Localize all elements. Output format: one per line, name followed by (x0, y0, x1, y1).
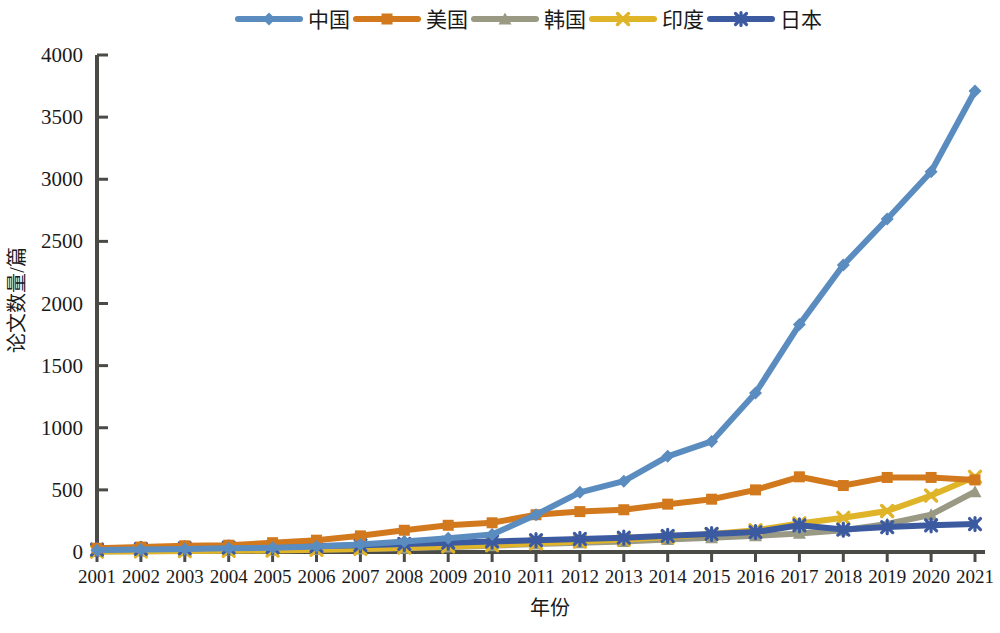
x-axis-tick-label: 2017 (780, 566, 818, 587)
y-axis-tick-label: 3000 (41, 167, 83, 191)
x-axis-tick-label: 2020 (912, 566, 950, 587)
x-axis-tick-label: 2013 (605, 566, 643, 587)
data-point-marker (399, 525, 410, 536)
y-axis-tick-label: 2500 (41, 229, 83, 253)
legend-label: 印度 (662, 8, 704, 32)
data-point-marker (794, 471, 805, 482)
legend-label: 中国 (308, 8, 350, 32)
x-axis-title: 年份 (530, 597, 570, 619)
chart-series (91, 85, 982, 558)
legend-item-0[interactable]: 中国 (238, 8, 350, 32)
legend-item-1[interactable]: 美国 (356, 8, 468, 32)
y-axis-title: 论文数量/篇 (6, 247, 28, 353)
x-axis-tick-label: 2009 (429, 566, 467, 587)
x-axis-tick-label: 2016 (737, 566, 775, 587)
legend-item-3[interactable]: 印度 (592, 8, 704, 32)
x-axis-tick-label: 2006 (298, 566, 336, 587)
data-point-marker (750, 484, 761, 495)
x-axis-tick-label: 2011 (517, 566, 554, 587)
data-point-marker (662, 499, 673, 510)
data-point-marker (838, 480, 849, 491)
legend-label: 美国 (426, 8, 468, 32)
x-axis-tick-label: 2002 (122, 566, 160, 587)
data-point-marker (970, 474, 981, 485)
data-point-marker (443, 520, 454, 531)
x-axis-tick-label: 2010 (473, 566, 511, 587)
y-axis-tick-label: 1000 (41, 416, 83, 440)
legend-item-2[interactable]: 韩国 (474, 8, 586, 32)
data-point-marker (487, 517, 498, 528)
x-axis-tick-label: 2003 (166, 566, 204, 587)
line-chart: 中国美国韩国印度日本 20012002200320042005200620072… (0, 0, 1000, 633)
x-axis-tick-label: 2019 (868, 566, 906, 587)
y-axis-tick-labels: 05001000150020002500300035004000 (41, 43, 83, 564)
x-axis-tick-label: 2004 (210, 566, 249, 587)
data-point-marker (618, 504, 629, 515)
y-axis-tick-label: 1500 (41, 354, 83, 378)
data-point-marker (882, 472, 893, 483)
x-axis-tick-label: 2007 (341, 566, 379, 587)
chart-legend: 中国美国韩国印度日本 (238, 8, 822, 32)
data-point-marker (574, 506, 585, 517)
data-point-marker (263, 13, 276, 26)
x-axis-tick-label: 2008 (385, 566, 423, 587)
y-axis-tick-label: 0 (73, 540, 84, 564)
x-axis-tick-label: 2014 (649, 566, 688, 587)
y-axis-tick-label: 4000 (41, 43, 83, 67)
legend-label: 日本 (780, 8, 822, 32)
x-axis-tick-label: 2001 (78, 566, 116, 587)
x-axis-tick-label: 2018 (824, 566, 862, 587)
y-axis-tick-label: 500 (52, 478, 84, 502)
y-axis-tick-label: 3500 (41, 105, 83, 129)
data-point-marker (706, 494, 717, 505)
legend-item-4[interactable]: 日本 (710, 8, 822, 32)
y-axis-tick-label: 2000 (41, 292, 83, 316)
x-axis-tick-label: 2021 (956, 566, 994, 587)
x-axis-tick-labels: 2001200220032004200520062007200820092010… (78, 566, 994, 587)
x-axis-tick-label: 2005 (254, 566, 292, 587)
x-axis-tick-label: 2012 (561, 566, 599, 587)
chart-container: 中国美国韩国印度日本 20012002200320042005200620072… (0, 0, 1000, 633)
data-point-marker (926, 472, 937, 483)
x-axis-tick-label: 2015 (693, 566, 731, 587)
legend-label: 韩国 (544, 8, 586, 32)
data-point-marker (382, 14, 393, 25)
